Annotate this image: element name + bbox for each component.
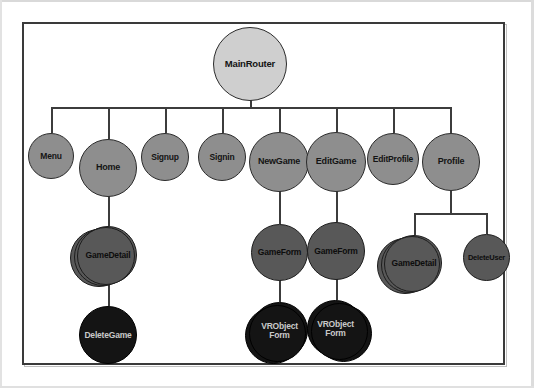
node-gamedetail-home[interactable]: GameDetail: [79, 226, 137, 284]
page-edge-left: [0, 0, 2, 388]
node-profile[interactable]: Profile: [422, 133, 480, 191]
node-editprofile[interactable]: EditProfile: [367, 133, 419, 185]
connector-gameform-vrobjectform-left: [279, 280, 281, 302]
node-label: EditGame: [307, 157, 365, 166]
node-deleteuser[interactable]: DeleteUser: [463, 234, 510, 281]
connector-editgame-gameform: [336, 190, 338, 222]
node-vrobjectform-edit[interactable]: VRObject Form: [307, 300, 364, 357]
connector-profile-bus: [414, 213, 488, 215]
connector-newgame-gameform: [279, 190, 281, 224]
node-gameform-edit[interactable]: GameForm: [307, 222, 365, 280]
connector-home-gamedetail: [108, 196, 110, 226]
connector-gameform-vrobjectform-right: [336, 278, 338, 300]
node-label: GameForm: [308, 247, 364, 256]
node-editgame[interactable]: EditGame: [306, 132, 366, 192]
connector-drop-menu: [51, 107, 53, 133]
page-edge-top: [0, 0, 534, 2]
node-gameform-new[interactable]: GameForm: [251, 224, 308, 281]
node-label: EditProfile: [368, 155, 418, 164]
node-label-line2: Form: [269, 330, 289, 340]
connector-level1-bus: [51, 107, 451, 109]
node-label: Home: [80, 163, 136, 172]
node-gamedetail-profile[interactable]: GameDetail: [386, 235, 442, 291]
node-label: DeleteUser: [464, 254, 509, 262]
node-label: GameForm: [252, 248, 307, 257]
connector-drop-profile: [450, 107, 452, 133]
node-label: GameDetail: [80, 251, 136, 260]
node-deletegame[interactable]: DeleteGame: [79, 306, 137, 364]
connector-profile-stem: [450, 191, 452, 213]
connector-drop-newgame: [279, 107, 281, 132]
connector-drop-gamedetail-profile: [414, 213, 416, 235]
node-label: Signup: [142, 153, 188, 162]
node-newgame[interactable]: NewGame: [249, 132, 309, 192]
node-signup[interactable]: Signup: [141, 133, 189, 181]
node-label: MainRouter: [214, 59, 286, 69]
node-signin[interactable]: Signin: [198, 133, 246, 181]
node-label: VRObject Form: [308, 320, 363, 338]
node-label: Menu: [29, 152, 73, 161]
node-label: DeleteGame: [80, 331, 136, 340]
connector-drop-home: [108, 107, 110, 139]
node-label-line2: Form: [325, 328, 345, 338]
connector-drop-editprofile: [393, 107, 395, 133]
node-label: VRObject Form: [252, 322, 307, 340]
node-label: Profile: [423, 157, 479, 166]
node-home[interactable]: Home: [79, 139, 137, 197]
node-vrobjectform-new[interactable]: VRObject Form: [251, 302, 308, 359]
connector-drop-deleteuser: [486, 213, 488, 234]
node-menu[interactable]: Menu: [28, 133, 74, 179]
diagram-canvas: MainRouter Menu Home Signup Signin NewGa…: [0, 0, 534, 388]
node-label: Signin: [199, 153, 245, 162]
connector-drop-signin: [222, 107, 224, 133]
node-label: GameDetail: [387, 259, 441, 268]
node-mainrouter[interactable]: MainRouter: [213, 27, 287, 101]
connector-drop-editgame: [336, 107, 338, 132]
node-label: NewGame: [250, 157, 308, 166]
connector-drop-signup: [165, 107, 167, 133]
